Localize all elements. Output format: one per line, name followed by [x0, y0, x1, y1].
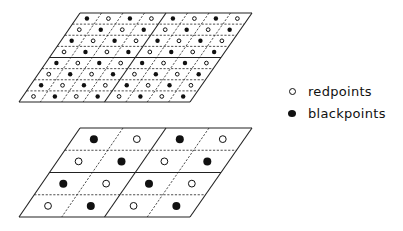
- red-point-icon: [205, 61, 209, 65]
- red-point-icon: [148, 50, 152, 54]
- red-point-icon: [133, 72, 137, 76]
- black-point-icon: [53, 94, 57, 98]
- black-point-icon: [117, 157, 125, 165]
- red-point-icon: [45, 202, 52, 209]
- red-point-icon: [32, 95, 36, 99]
- black-point-icon: [167, 83, 171, 87]
- red-point-icon: [163, 28, 167, 32]
- red-point-icon: [160, 95, 164, 99]
- red-point-icon: [175, 72, 179, 76]
- red-point-icon: [220, 39, 224, 43]
- black-point-icon: [169, 50, 173, 54]
- red-point-icon: [120, 28, 124, 32]
- fine-grid: [19, 13, 252, 102]
- black-point-icon: [198, 39, 202, 43]
- legend-label: redpoints: [308, 84, 372, 99]
- black-point-icon: [214, 16, 218, 20]
- red-point-icon: [103, 180, 110, 187]
- black-point-icon: [99, 27, 103, 31]
- red-point-icon: [90, 72, 94, 76]
- red-point-icon: [191, 50, 195, 54]
- black-point-icon: [83, 50, 87, 54]
- red-point-icon: [236, 17, 240, 21]
- black-point-icon: [138, 94, 142, 98]
- black-point-icon: [87, 202, 95, 210]
- red-point-icon: [105, 50, 109, 54]
- red-point-icon: [47, 72, 51, 76]
- black-point-icon: [145, 180, 153, 188]
- red-point-icon: [177, 39, 181, 43]
- red-point-icon: [74, 95, 78, 99]
- red-point-icon: [193, 17, 197, 21]
- red-point-icon: [150, 17, 154, 21]
- black-point-icon: [154, 72, 158, 76]
- red-point-icon: [162, 61, 166, 65]
- black-point-icon: [183, 61, 187, 65]
- legend-label: blackpoints: [308, 106, 386, 121]
- black-point-icon: [140, 61, 144, 65]
- legend-item-blackpoints: blackpoints: [285, 102, 386, 124]
- filled-circle-icon: [285, 110, 299, 117]
- black-point-icon: [196, 72, 200, 76]
- black-point-icon: [111, 72, 115, 76]
- open-circle-icon: [285, 88, 299, 95]
- black-point-icon: [97, 61, 101, 65]
- black-point-icon: [39, 83, 43, 87]
- black-point-icon: [59, 180, 67, 188]
- red-point-icon: [62, 50, 66, 54]
- black-point-icon: [125, 83, 129, 87]
- red-point-icon: [130, 202, 137, 209]
- black-point-icon: [181, 94, 185, 98]
- legend-item-redpoints: redpoints: [285, 80, 386, 102]
- black-point-icon: [184, 27, 188, 31]
- red-point-icon: [219, 136, 226, 143]
- black-point-icon: [176, 135, 184, 143]
- red-point-icon: [77, 28, 81, 32]
- black-point-icon: [68, 72, 72, 76]
- red-point-icon: [76, 61, 80, 65]
- black-point-icon: [128, 16, 132, 20]
- black-point-icon: [171, 16, 175, 20]
- black-point-icon: [203, 157, 211, 165]
- black-point-icon: [212, 50, 216, 54]
- coarse-grid: [19, 128, 252, 217]
- black-point-icon: [112, 39, 116, 43]
- red-point-icon: [161, 158, 168, 165]
- red-point-icon: [119, 61, 123, 65]
- red-point-icon: [61, 83, 65, 87]
- black-point-icon: [126, 50, 130, 54]
- red-point-icon: [206, 28, 210, 32]
- black-point-icon: [82, 83, 86, 87]
- black-point-icon: [172, 202, 180, 210]
- red-point-icon: [134, 39, 138, 43]
- red-point-icon: [189, 83, 193, 87]
- red-point-icon: [107, 17, 111, 21]
- red-point-icon: [75, 158, 82, 165]
- red-point-icon: [133, 136, 140, 143]
- black-point-icon: [95, 94, 99, 98]
- black-point-icon: [90, 135, 98, 143]
- black-point-icon: [54, 61, 58, 65]
- red-point-icon: [117, 95, 121, 99]
- red-point-icon: [146, 83, 150, 87]
- black-point-icon: [142, 27, 146, 31]
- black-point-icon: [155, 39, 159, 43]
- legend: redpoints blackpoints: [285, 80, 386, 124]
- red-point-icon: [91, 39, 95, 43]
- black-point-icon: [69, 39, 73, 43]
- red-point-icon: [103, 83, 107, 87]
- red-point-icon: [188, 180, 195, 187]
- black-point-icon: [85, 16, 89, 20]
- black-point-icon: [227, 27, 231, 31]
